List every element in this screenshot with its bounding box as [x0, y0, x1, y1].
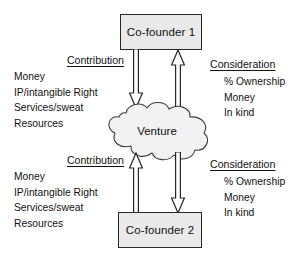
- consideration-top-heading: Consideration: [210, 57, 298, 72]
- list-item: Money: [14, 69, 126, 84]
- arrow-contribution-bottom-up-icon: [128, 152, 144, 214]
- list-item: Money: [224, 90, 298, 105]
- consideration-block-bottom: Consideration % Ownership Money In kind: [210, 157, 298, 221]
- list-item: In kind: [224, 105, 298, 120]
- consideration-block-top: Consideration % Ownership Money In kind: [210, 57, 298, 121]
- contribution-top-heading: Contribution: [14, 53, 126, 68]
- arrow-consideration-bottom-down-icon: [170, 152, 186, 214]
- consideration-bottom-heading: Consideration: [210, 157, 298, 172]
- list-item: Money: [14, 169, 126, 184]
- list-item: In kind: [224, 205, 298, 220]
- list-item: Money: [224, 190, 298, 205]
- list-item: % Ownership: [224, 174, 298, 189]
- contribution-block-bottom: Contribution Money IP/intangible Right S…: [14, 153, 126, 231]
- contribution-bottom-list: Money IP/intangible Right Services/sweat…: [14, 169, 126, 231]
- node-co-founder-2-label: Co-founder 2: [126, 224, 194, 236]
- list-item: Resources: [14, 216, 126, 231]
- list-item: % Ownership: [224, 74, 298, 89]
- list-item: IP/intangible Right: [14, 85, 126, 100]
- list-item: IP/intangible Right: [14, 185, 126, 200]
- node-co-founder-1: Co-founder 1: [120, 14, 202, 50]
- node-co-founder-2: Co-founder 2: [118, 212, 202, 248]
- diagram-canvas: Co-founder 1 Contribution Money IP/intan…: [0, 0, 301, 259]
- list-item: Services/sweat: [14, 200, 126, 215]
- contribution-bottom-heading: Contribution: [14, 153, 126, 168]
- node-co-founder-1-label: Co-founder 1: [127, 26, 195, 38]
- consideration-bottom-list: % Ownership Money In kind: [210, 174, 298, 220]
- consideration-top-list: % Ownership Money In kind: [210, 74, 298, 120]
